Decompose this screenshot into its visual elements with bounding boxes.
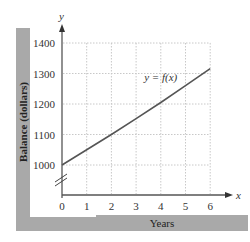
- y-axis-arrow-icon: [59, 24, 65, 32]
- x-tick-label: 0: [59, 200, 65, 212]
- x-tick-label: 1: [84, 200, 90, 212]
- x-tick-label: 3: [133, 200, 139, 212]
- curve-label: y = f(x): [143, 71, 177, 84]
- x-axis-label: Years: [150, 217, 175, 229]
- y-axis-label: Balance (dollars): [17, 82, 30, 162]
- x-tick-label: 4: [158, 200, 164, 212]
- chart: 100011001200130014000123456 y x Balance …: [0, 0, 250, 242]
- y-tick-label: 1300: [33, 68, 56, 80]
- y-axis-name: y: [58, 10, 64, 22]
- y-tick-label: 1100: [33, 129, 55, 141]
- x-axis-name: x: [235, 189, 241, 201]
- x-axis-arrow-icon: [225, 192, 233, 198]
- x-tick-label: 5: [183, 200, 189, 212]
- x-tick-label: 2: [109, 200, 115, 212]
- x-tick-label: 6: [207, 200, 213, 212]
- y-tick-label: 1000: [33, 159, 56, 171]
- tick-labels: 100011001200130014000123456: [33, 37, 213, 212]
- xlabel-band: [16, 217, 97, 231]
- y-tick-label: 1400: [33, 37, 56, 49]
- axis-break-icon: [55, 174, 67, 186]
- y-tick-label: 1200: [33, 98, 56, 110]
